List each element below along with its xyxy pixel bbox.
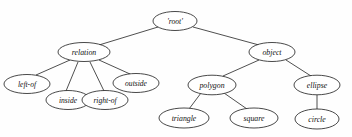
- node-label-relation: relation: [72, 48, 97, 57]
- tree-node-circle[interactable]: circle: [295, 109, 339, 129]
- tree-diagram-canvas: 'root'relationobjectleft-ofinsideright-o…: [0, 0, 352, 137]
- tree-edge-relation-to-outside: [99, 60, 130, 74]
- node-label-right-of: right-of: [93, 96, 117, 105]
- tree-edge-object-to-ellipse: [286, 60, 311, 76]
- tree-edge-root-to-relation: [99, 27, 158, 45]
- tree-node-triangle[interactable]: triangle: [159, 108, 209, 128]
- tree-node-object[interactable]: object: [249, 43, 295, 62]
- tree-node-outside[interactable]: outside: [113, 74, 159, 93]
- node-label-inside: inside: [59, 96, 78, 105]
- tree-node-left-of[interactable]: left-of: [4, 75, 50, 94]
- tree-edge-relation-to-inside: [66, 62, 78, 91]
- node-layer: 'root'relationobjectleft-ofinsideright-o…: [4, 12, 340, 130]
- node-label-root: 'root': [167, 17, 183, 26]
- tree-edge-object-to-polygon: [223, 60, 259, 76]
- tree-edge-relation-to-right-of: [90, 62, 104, 91]
- node-label-polygon: polygon: [198, 81, 224, 90]
- node-label-circle: circle: [308, 115, 326, 124]
- tree-edge-polygon-to-triangle: [189, 93, 201, 109]
- node-label-outside: outside: [125, 79, 148, 88]
- tree-node-polygon[interactable]: polygon: [188, 75, 236, 95]
- node-label-left-of: left-of: [18, 80, 37, 89]
- tree-node-relation[interactable]: relation: [58, 43, 110, 62]
- tree-edge-polygon-to-square: [224, 93, 247, 109]
- node-label-object: object: [262, 48, 282, 57]
- tree-edge-relation-to-left-of: [36, 60, 70, 75]
- node-label-square: square: [244, 114, 265, 123]
- tree-edge-root-to-object: [193, 27, 259, 45]
- tree-node-root[interactable]: 'root': [153, 12, 197, 31]
- node-label-ellipse: ellipse: [307, 81, 328, 90]
- tree-node-right-of[interactable]: right-of: [82, 91, 128, 110]
- tree-node-ellipse[interactable]: ellipse: [294, 75, 340, 95]
- node-label-triangle: triangle: [172, 114, 197, 123]
- tree-diagram: 'root'relationobjectleft-ofinsideright-o…: [0, 0, 352, 137]
- tree-node-square[interactable]: square: [230, 108, 278, 128]
